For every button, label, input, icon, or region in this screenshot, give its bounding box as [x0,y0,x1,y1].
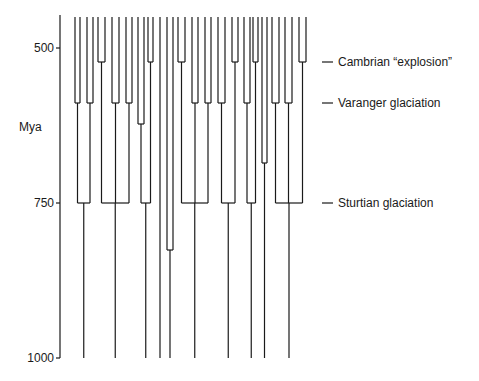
tick-label-1000: 1000 [4,351,54,365]
time-axis [56,15,60,358]
event-label-cambrian: Cambrian “explosion” [338,55,452,69]
axis-unit-label: Mya [19,120,42,134]
event-markers [322,62,333,203]
event-label-varanger: Varanger glaciation [338,96,441,110]
tick-label-500: 500 [4,41,54,55]
tick-label-750: 750 [4,196,54,210]
lineage-tree [75,17,306,358]
event-label-sturtian: Sturtian glaciation [338,196,433,210]
